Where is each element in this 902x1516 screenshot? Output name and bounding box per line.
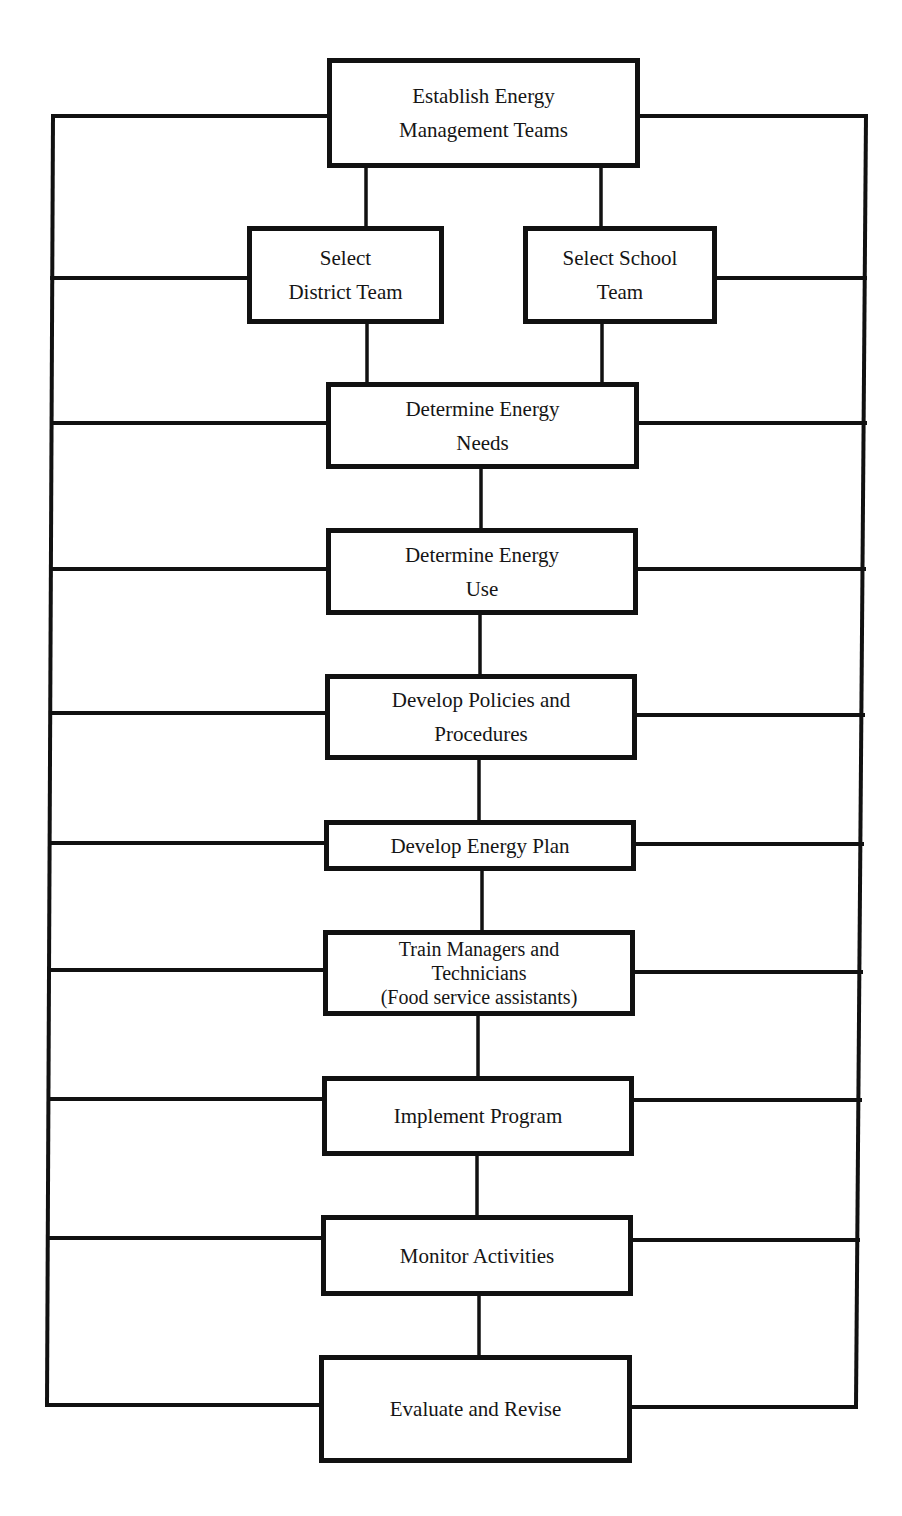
node-develop-energy-plan: Develop Energy Plan (324, 820, 636, 871)
node-label: Implement Program (394, 1099, 563, 1133)
node-label: District Team (288, 275, 402, 309)
node-label: Evaluate and Revise (390, 1392, 561, 1426)
node-establish-energy-management-teams: Establish Energy Management Teams (327, 58, 640, 168)
right-rail (856, 116, 866, 1405)
node-implement-program: Implement Program (322, 1076, 634, 1156)
node-train-managers-and-technicians: Train Managers and Technicians (Food ser… (323, 930, 635, 1016)
node-label: Determine Energy (405, 538, 559, 572)
node-label: Train Managers and (399, 937, 559, 961)
node-label: Technicians (431, 961, 526, 985)
node-label: Develop Policies and (392, 683, 570, 717)
node-label: Procedures (434, 717, 527, 751)
node-label: Needs (456, 426, 508, 460)
node-label: Use (466, 572, 499, 606)
node-label: Select (320, 241, 371, 275)
node-determine-energy-needs: Determine Energy Needs (326, 382, 639, 469)
node-monitor-activities: Monitor Activities (321, 1215, 633, 1296)
node-select-school-team: Select School Team (523, 226, 717, 324)
node-label: Management Teams (399, 113, 568, 147)
node-select-district-team: Select District Team (247, 226, 444, 324)
node-evaluate-and-revise: Evaluate and Revise (319, 1355, 632, 1463)
node-determine-energy-use: Determine Energy Use (326, 528, 638, 615)
node-label: Select School (563, 241, 678, 275)
node-label: Establish Energy (412, 79, 555, 113)
node-label: Determine Energy (405, 392, 559, 426)
node-label: Team (597, 275, 643, 309)
node-develop-policies-and-procedures: Develop Policies and Procedures (325, 674, 637, 760)
node-label: Monitor Activities (400, 1239, 555, 1273)
left-rail (47, 116, 53, 1405)
node-label: Develop Energy Plan (390, 829, 569, 863)
node-label: (Food service assistants) (381, 985, 578, 1009)
